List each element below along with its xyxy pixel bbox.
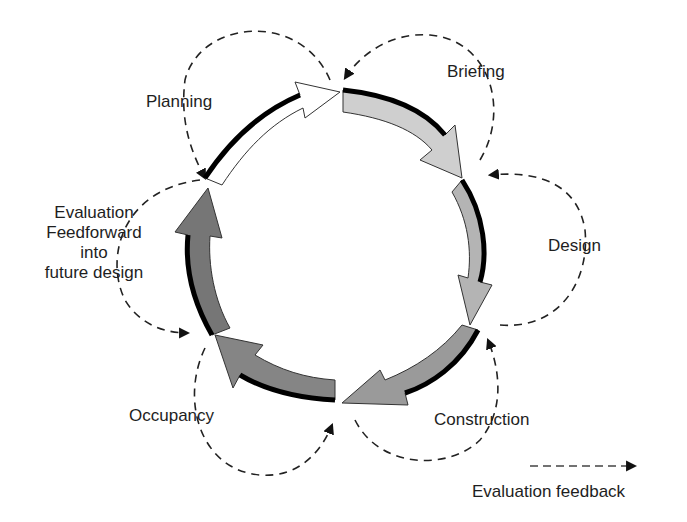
legend-label: Evaluation feedback [472, 482, 625, 502]
label-planning: Planning [146, 92, 212, 112]
label-occupancy: Occupancy [129, 406, 214, 426]
label-evaluation: Evaluation Feedforward into future desig… [34, 203, 154, 283]
label-evaluation-line3: into [34, 243, 154, 263]
label-evaluation-line2: Feedforward [34, 223, 154, 243]
label-briefing: Briefing [447, 62, 505, 82]
label-evaluation-line1: Evaluation [34, 203, 154, 223]
arrow-planning [205, 82, 340, 185]
label-evaluation-line4: future design [34, 263, 154, 283]
label-construction: Construction [434, 410, 529, 430]
label-design: Design [548, 236, 601, 256]
